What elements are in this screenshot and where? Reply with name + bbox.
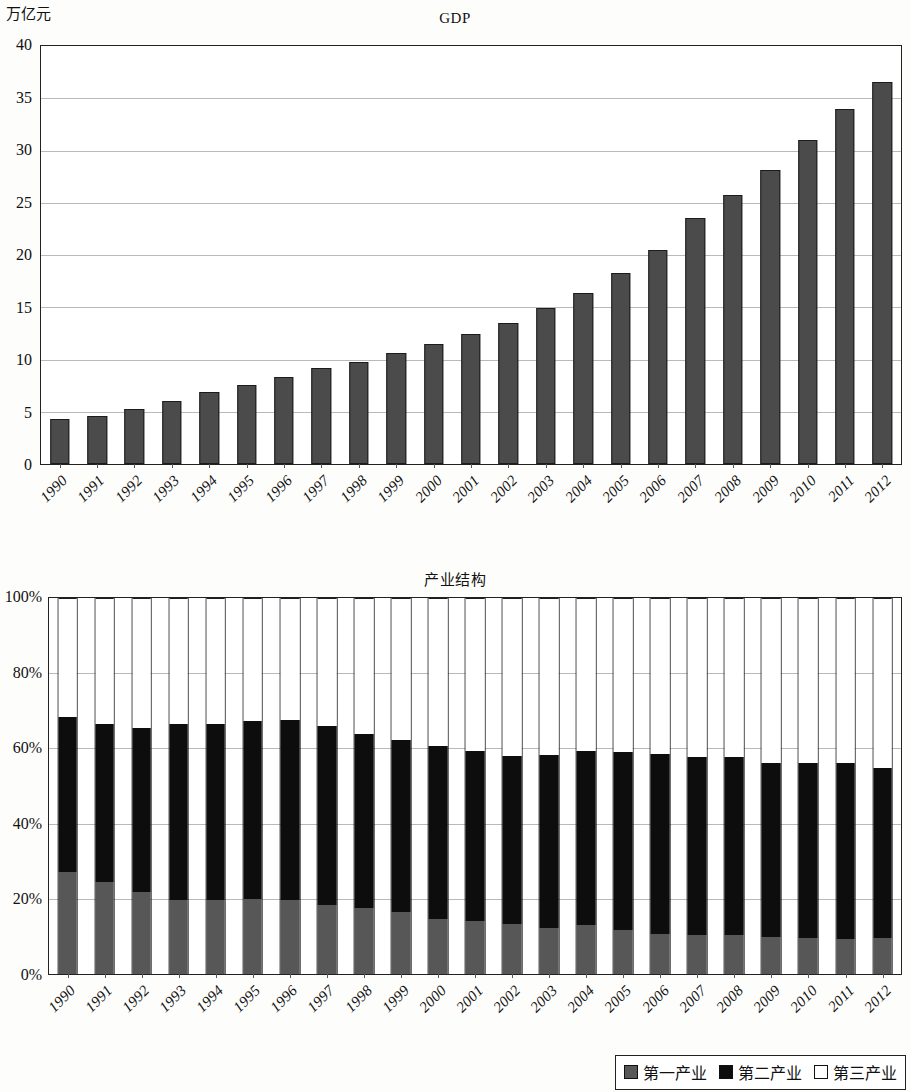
- x-label-slot: 1992: [115, 470, 152, 471]
- bar-slot: [378, 46, 415, 464]
- bar-slot: [568, 598, 605, 974]
- bar-slot: [790, 598, 827, 974]
- stack-segment: [799, 938, 818, 974]
- x-tick: [586, 974, 587, 978]
- stack-segment: [429, 746, 448, 919]
- stack-segment: [58, 717, 77, 872]
- x-label-slot: 2000: [419, 980, 456, 981]
- structure-stacked-bar: [131, 598, 152, 974]
- structure-stacked-bar: [465, 598, 486, 974]
- stack-segment: [503, 598, 522, 756]
- structure-stacked-bar: [391, 598, 412, 974]
- gdp-bar: [873, 82, 892, 464]
- stack-segment: [206, 598, 225, 724]
- bar-slot: [564, 46, 601, 464]
- x-tick-label: 2001: [449, 472, 483, 506]
- y-tick-label: 25: [0, 195, 32, 211]
- y-tick-label: 10: [0, 352, 32, 368]
- x-tick: [364, 974, 365, 978]
- stack-segment: [873, 938, 892, 974]
- stack-segment: [280, 900, 299, 974]
- x-tick-label: 2005: [599, 472, 633, 506]
- x-tick: [846, 974, 847, 978]
- x-tick: [770, 464, 771, 468]
- x-tick: [327, 974, 328, 978]
- gdp-bar: [611, 273, 630, 464]
- x-label-slot: 1991: [77, 470, 114, 471]
- gdp-plot-area: [40, 45, 902, 465]
- x-tick-label: 2009: [750, 982, 784, 1016]
- stack-segment: [355, 734, 374, 908]
- stack-segment: [873, 768, 892, 938]
- x-tick: [172, 464, 173, 468]
- stack-segment: [169, 598, 188, 724]
- stack-segment: [540, 755, 559, 928]
- stack-segment: [95, 598, 114, 724]
- gdp-bar: [760, 170, 779, 464]
- x-tick: [808, 464, 809, 468]
- legend-item: 第二产业: [719, 1060, 802, 1084]
- bar-slot: [303, 46, 340, 464]
- gdp-bar: [87, 416, 106, 464]
- x-tick: [209, 464, 210, 468]
- structure-stacked-bar: [428, 598, 449, 974]
- stack-segment: [169, 724, 188, 900]
- x-label-slot: 1997: [308, 980, 345, 981]
- x-tick: [623, 974, 624, 978]
- bar-slot: [490, 46, 527, 464]
- stack-segment: [317, 726, 336, 905]
- y-tick-label: 100%: [0, 589, 42, 605]
- bar-slot: [265, 46, 302, 464]
- x-tick: [60, 464, 61, 468]
- x-tick: [883, 974, 884, 978]
- stack-segment: [614, 930, 633, 974]
- stack-segment: [466, 598, 485, 751]
- x-label-slot: 1993: [152, 470, 189, 471]
- stack-segment: [651, 934, 670, 974]
- stack-segment: [466, 921, 485, 974]
- y-tick-label: 20%: [0, 891, 42, 907]
- stack-segment: [392, 598, 411, 740]
- x-label-slot: 2002: [494, 980, 531, 981]
- bar-slot: [531, 598, 568, 974]
- x-tick-label: 1996: [267, 982, 301, 1016]
- bar-slot: [228, 46, 265, 464]
- x-tick: [882, 464, 883, 468]
- structure-stacked-bar: [316, 598, 337, 974]
- x-tick-label: 2011: [825, 472, 858, 505]
- bar-slot: [826, 46, 863, 464]
- gdp-bar: [349, 362, 368, 464]
- x-tick-label: 2007: [674, 472, 708, 506]
- gdp-x-axis-labels: 1990199119921993199419951996199719981999…: [40, 470, 902, 471]
- x-tick-label: 2012: [861, 472, 895, 506]
- x-tick-label: 1997: [304, 982, 338, 1016]
- stack-segment: [873, 598, 892, 768]
- x-tick: [471, 464, 472, 468]
- y-tick-label: 30: [0, 142, 32, 158]
- x-tick-label: 1993: [149, 472, 183, 506]
- x-label-slot: 1993: [159, 980, 196, 981]
- x-tick: [247, 464, 248, 468]
- x-tick-label: 2002: [490, 982, 524, 1016]
- x-tick-label: 1991: [74, 472, 108, 506]
- gdp-bar: [798, 140, 817, 464]
- x-tick-label: 2000: [412, 472, 446, 506]
- x-tick-label: 1990: [44, 982, 78, 1016]
- stack-segment: [355, 908, 374, 974]
- structure-stacked-bar: [613, 598, 634, 974]
- x-tick: [660, 974, 661, 978]
- structure-stacked-bar: [872, 598, 893, 974]
- stack-segment: [58, 872, 77, 974]
- structure-stacked-bar: [650, 598, 671, 974]
- legend-label: 第一产业: [643, 1060, 707, 1084]
- x-tick-label: 2000: [416, 982, 450, 1016]
- x-tick: [695, 464, 696, 468]
- gdp-bar: [386, 353, 405, 464]
- bar-slot: [382, 598, 419, 974]
- x-tick-label: 2006: [638, 982, 672, 1016]
- x-tick-label: 1994: [193, 982, 227, 1016]
- x-label-slot: 1991: [85, 980, 122, 981]
- structure-legend: 第一产业第二产业第三产业: [615, 1055, 906, 1090]
- structure-stacked-bar: [539, 598, 560, 974]
- x-tick: [546, 464, 547, 468]
